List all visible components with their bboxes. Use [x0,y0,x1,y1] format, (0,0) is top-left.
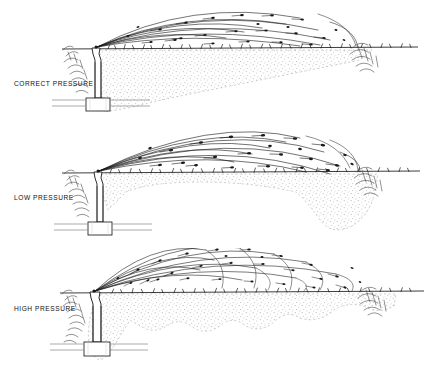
panel-low-pressure [0,122,438,250]
thrust-block [86,98,110,111]
panel-label-high-pressure: HIGH PRESSURE [14,305,76,312]
wetted-soil-zone [90,170,386,242]
wetted-soil-zone [82,290,400,374]
thrust-block [84,342,110,356]
ground-line [60,288,424,293]
panel-correct-pressure [0,0,438,126]
panel-high-pressure [0,248,438,377]
near-shrub [62,290,85,343]
water-droplets [126,14,345,46]
ground-line [62,168,420,173]
spray-trajectories [97,12,358,48]
panel-label-low-pressure: LOW PRESSURE [14,194,74,201]
wetted-soil-zone [90,46,380,116]
figure-canvas: CORRECT PRESSURE LOW PRESSURE HIGH PRESS… [0,0,438,377]
spray-trajectories [95,248,353,291]
thrust-block [88,222,112,235]
panel-label-correct-pressure: CORRECT PRESSURE [14,80,93,87]
ground-line [62,44,418,49]
